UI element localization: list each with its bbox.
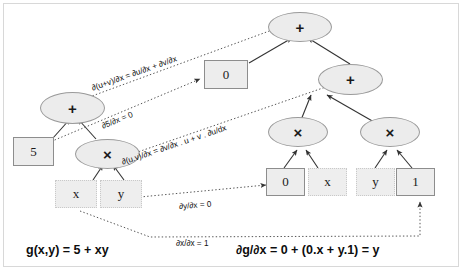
node-right-inner-plus[interactable]: + <box>318 64 383 95</box>
node-right-operand-0[interactable]: 0 <box>266 168 305 196</box>
diagram-canvas: + 5 × x y + 0 + × × 0 x y 1 ∂(u+v)/∂x = … <box>0 0 465 273</box>
edge-x-to-mulleft <box>306 150 318 168</box>
node-left-plus[interactable]: + <box>40 92 105 124</box>
node-right-operand-1[interactable]: 1 <box>396 168 435 196</box>
edge-1-to-mulright <box>397 150 412 168</box>
node-right-operand-x[interactable]: x <box>308 168 347 196</box>
edge-0-to-mulleft <box>284 150 297 168</box>
node-left-leaf-y[interactable]: y <box>100 180 142 208</box>
rule-label-dx: ∂x/∂x = 1 <box>176 239 208 248</box>
dotted-y-to-zero-box <box>140 185 266 197</box>
node-right-mul-left[interactable]: × <box>268 117 328 147</box>
node-right-mul-right[interactable]: × <box>360 117 420 147</box>
node-right-const-0[interactable]: 0 <box>204 60 248 89</box>
node-left-leaf-x[interactable]: x <box>55 180 97 208</box>
formula-left: g(x,y) = 5 + xy <box>26 243 109 257</box>
dotted-plus-to-rootplus <box>62 26 283 107</box>
edge-y-to-mulright <box>375 150 387 168</box>
node-right-root-plus[interactable]: + <box>268 12 332 42</box>
node-right-operand-y[interactable]: y <box>356 168 395 196</box>
node-left-const-5[interactable]: 5 <box>13 137 54 166</box>
edge-zero-to-rootplus <box>249 38 292 63</box>
edge-innerplus-to-rootplus <box>308 38 350 64</box>
formula-right: ∂g/∂x = 0 + (0.x + y.1) = y <box>236 243 379 257</box>
